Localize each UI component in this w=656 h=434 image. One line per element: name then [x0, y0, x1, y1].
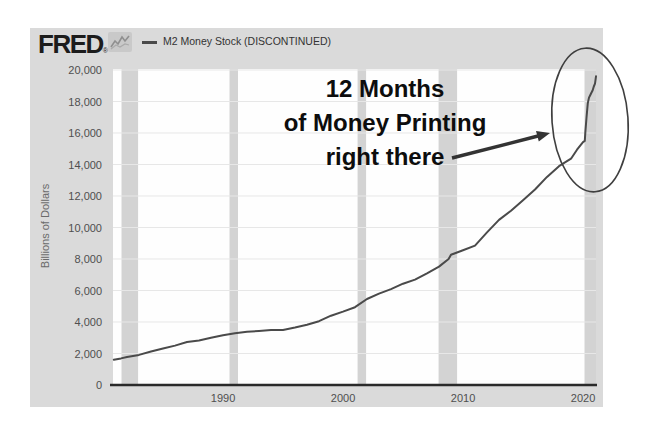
y-tick-label: 2,000	[40, 348, 102, 360]
legend-series-label: M2 Money Stock (DISCONTINUED)	[163, 35, 331, 47]
fred-logo-chart-icon	[108, 32, 132, 52]
annotation-text: 12 Months of Money Printing right there	[265, 72, 505, 174]
annotation-line-2: of Money Printing	[265, 106, 505, 140]
x-tick-label: 2020	[563, 392, 603, 404]
chart-header: FRED® M2 Money Stock (DISCONTINUED)	[38, 29, 108, 53]
y-tick-label: 10,000	[40, 222, 102, 234]
y-tick-label: 14,000	[40, 159, 102, 171]
x-tick-label: 1990	[203, 392, 243, 404]
annotation-line-1: 12 Months	[265, 72, 505, 106]
y-tick-label: 20,000	[40, 64, 102, 76]
y-tick-label: 6,000	[40, 285, 102, 297]
y-tick-label: 4,000	[40, 316, 102, 328]
fred-logo: FRED	[38, 29, 103, 59]
x-tick-label: 2000	[323, 392, 363, 404]
y-tick-label: 0	[40, 379, 102, 391]
legend-line-swatch	[142, 41, 157, 44]
y-tick-label: 8,000	[40, 253, 102, 265]
y-tick-label: 12,000	[40, 190, 102, 202]
y-tick-label: 18,000	[40, 96, 102, 108]
y-tick-label: 16,000	[40, 127, 102, 139]
annotation-line-3: right there	[265, 140, 505, 174]
x-tick-label: 2010	[443, 392, 483, 404]
